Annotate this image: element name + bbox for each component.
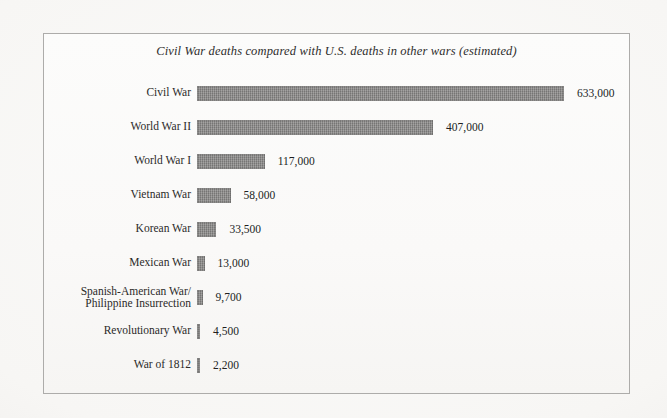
category-label: World War II bbox=[0, 121, 191, 133]
value-label: 407,000 bbox=[446, 121, 483, 133]
category-label: Revolutionary War bbox=[0, 325, 191, 337]
category-label: Spanish-American War/ Philippine Insurre… bbox=[0, 286, 191, 309]
bar-group: 4,500 bbox=[197, 323, 239, 339]
bar-row: Civil War 633,000 bbox=[44, 76, 631, 110]
bar-group: 633,000 bbox=[197, 85, 614, 101]
bar-group: 13,000 bbox=[197, 255, 249, 271]
category-label: War of 1812 bbox=[0, 359, 191, 371]
bar-row: Vietnam War 58,000 bbox=[44, 178, 631, 212]
bar-row: Revolutionary War 4,500 bbox=[44, 314, 631, 348]
bar-row: Korean War 33,500 bbox=[44, 212, 631, 246]
bar-revolutionary-war bbox=[197, 324, 200, 339]
bar-group: 407,000 bbox=[197, 119, 483, 135]
bar-vietnam-war bbox=[197, 188, 231, 203]
bar-group: 9,700 bbox=[197, 289, 241, 305]
category-label: Korean War bbox=[0, 223, 191, 235]
bar-spanish-american-war bbox=[197, 290, 203, 305]
bar-chart-plot: Civil War 633,000 World War II 407,000 W… bbox=[44, 76, 631, 382]
value-label: 58,000 bbox=[244, 189, 276, 201]
chart-frame: Civil War deaths compared with U.S. deat… bbox=[43, 33, 630, 394]
bar-world-war-i bbox=[197, 154, 265, 169]
value-label: 4,500 bbox=[213, 325, 239, 337]
value-label: 633,000 bbox=[577, 87, 614, 99]
category-label: Vietnam War bbox=[0, 189, 191, 201]
bar-group: 2,200 bbox=[197, 357, 239, 373]
value-label: 2,200 bbox=[213, 359, 239, 371]
bar-row: World War II 407,000 bbox=[44, 110, 631, 144]
value-label: 33,500 bbox=[229, 223, 261, 235]
bar-mexican-war bbox=[197, 256, 205, 271]
bar-group: 117,000 bbox=[197, 153, 315, 169]
bar-group: 33,500 bbox=[197, 221, 261, 237]
value-label: 117,000 bbox=[278, 155, 315, 167]
category-label: Civil War bbox=[0, 87, 191, 99]
bar-korean-war bbox=[197, 222, 216, 237]
bar-war-of-1812 bbox=[197, 358, 200, 373]
bar-group: 58,000 bbox=[197, 187, 275, 203]
bar-row: Spanish-American War/ Philippine Insurre… bbox=[44, 280, 631, 314]
bar-world-war-ii bbox=[197, 120, 433, 135]
value-label: 9,700 bbox=[216, 291, 242, 303]
chart-page: Civil War deaths compared with U.S. deat… bbox=[0, 0, 667, 418]
bar-civil-war bbox=[197, 86, 564, 101]
bar-row: Mexican War 13,000 bbox=[44, 246, 631, 280]
bar-row: World War I 117,000 bbox=[44, 144, 631, 178]
category-label: Mexican War bbox=[0, 257, 191, 269]
category-label: World War I bbox=[0, 155, 191, 167]
bar-row: War of 1812 2,200 bbox=[44, 348, 631, 382]
chart-title: Civil War deaths compared with U.S. deat… bbox=[44, 44, 629, 59]
value-label: 13,000 bbox=[218, 257, 250, 269]
